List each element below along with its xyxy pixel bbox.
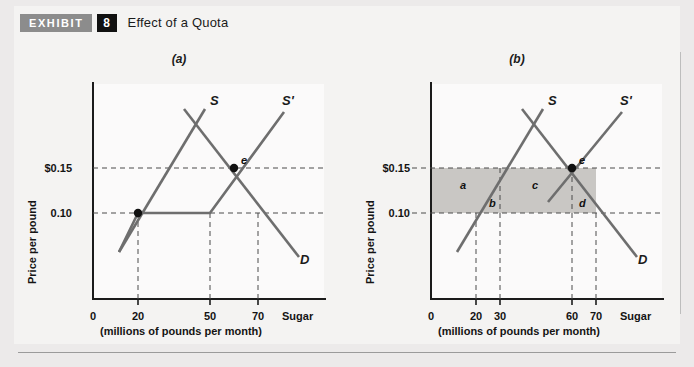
panel-a-xtick-50: 50 [197, 310, 223, 322]
panel-b-xtick-20: 20 [463, 310, 489, 322]
panel-a-x-axis-name: Sugar [282, 310, 313, 322]
panel-a-point-e [230, 164, 238, 172]
exhibit-label: EXHIBIT [20, 14, 92, 32]
panel-a-ytick-010: 0.10 [22, 207, 72, 219]
panel-b-xtick-60: 60 [559, 310, 585, 322]
panel-a-label-S: S [210, 93, 219, 108]
panel-b-region-a: a [460, 179, 466, 191]
panel-b-region-c: c [532, 179, 538, 191]
panel-b-point-e [568, 164, 576, 172]
panel-a-xtick-20: 20 [125, 310, 151, 322]
panel-b-xtick-0: 0 [418, 310, 444, 322]
exhibit-header: EXHIBIT 8 Effect of a Quota [20, 13, 228, 32]
panel-divider [680, 52, 681, 314]
panel-b-title: (b) [352, 52, 682, 66]
panel-b-xtick-70: 70 [583, 310, 609, 322]
panel-b-ytick-015: $0.15 [360, 162, 410, 174]
panel-b-x-axis-name: Sugar [620, 310, 651, 322]
panel-b-point-label-e: e [579, 154, 585, 166]
panel-a-point-domestic-supply [134, 209, 142, 217]
panel-b: (b) Price per pound $0.15 0.10 [352, 52, 682, 342]
panel-b-region-d: d [579, 197, 586, 209]
panel-b-plot [352, 52, 682, 342]
panel-b-x-axis-sublabel: (millions of pounds per month) [438, 325, 600, 337]
exhibit-number: 8 [97, 14, 117, 32]
panel-a-title: (a) [14, 52, 344, 66]
exhibit-title: Effect of a Quota [128, 15, 229, 30]
panel-a-x-axis-sublabel: (millions of pounds per month) [100, 325, 262, 337]
panel-a-plot-background [92, 84, 324, 300]
panel-b-label-S: S [548, 93, 557, 108]
panel-b-ytick-010: 0.10 [360, 207, 410, 219]
panel-a-label-D: D [300, 252, 309, 267]
panel-a-label-S-prime: S' [282, 93, 294, 108]
panel-b-label-S-prime: S' [620, 93, 632, 108]
panel-b-label-D: D [638, 252, 647, 267]
exhibit-page: EXHIBIT 8 Effect of a Quota (a) Price pe… [0, 0, 694, 367]
panel-a-ytick-015: $0.15 [22, 162, 72, 174]
panel-a-xtick-70: 70 [245, 310, 271, 322]
panel-a-plot [14, 52, 344, 342]
panel-b-region-b: b [489, 197, 496, 209]
panel-a-point-label-e: e [241, 154, 247, 166]
panel-a: (a) Price per pound $0.15 0.10 [14, 52, 344, 342]
panel-b-xtick-30: 30 [487, 310, 513, 322]
bottom-rule [18, 352, 676, 353]
panel-a-xtick-0: 0 [80, 310, 106, 322]
